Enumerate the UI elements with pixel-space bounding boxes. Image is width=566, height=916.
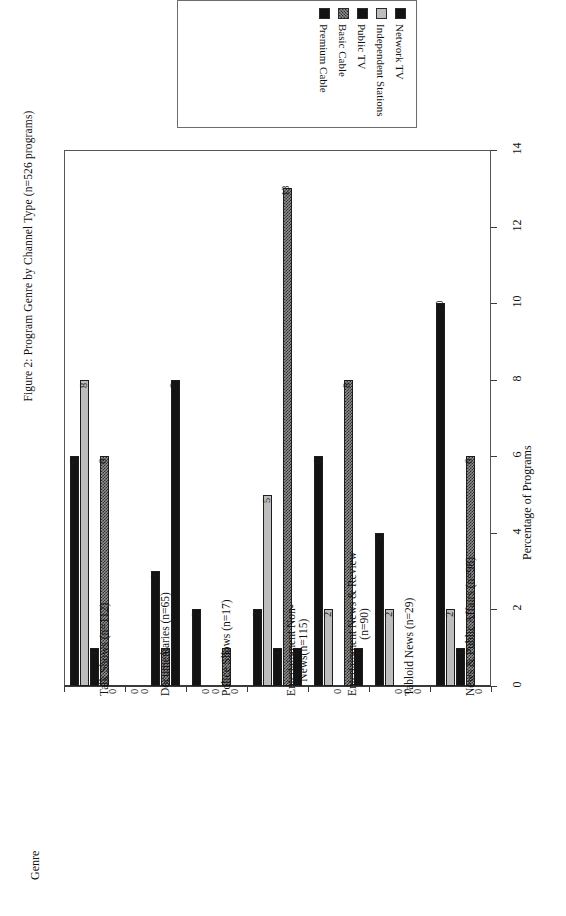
bar-value-label: 10: [434, 301, 445, 312]
value-axis-tick-label: 0: [510, 675, 525, 695]
value-axis-tick-label: 14: [510, 139, 525, 159]
bar-value-label: 6: [68, 459, 79, 464]
legend-item-label: Independent Stations: [376, 24, 388, 117]
value-axis-tick-label: 4: [510, 521, 525, 541]
category-axis-tick: [308, 686, 309, 692]
category-axis-label-line: Police Shows (n=17): [220, 599, 232, 696]
legend-swatch-icon: [357, 8, 368, 19]
legend-swatch-icon: [395, 8, 406, 19]
value-axis-tick-label: 6: [510, 445, 525, 465]
category-axis-label: Entertainment News & Review(n=90): [346, 552, 370, 696]
bar-value-label: 2: [444, 612, 455, 617]
category-axis-label-line: Tabloid News (n=29): [403, 598, 415, 696]
plot-area: [64, 150, 491, 686]
category-axis-label-line: Documentaries (n=65): [159, 592, 171, 696]
bar-value-label: 1: [454, 650, 465, 655]
bar-value-label: 1: [88, 650, 99, 655]
category-axis-tick: [247, 686, 248, 692]
category-axis-label: Talk Shows (n=112): [98, 603, 110, 696]
bar: [324, 609, 333, 686]
legend-item: Independent Stations: [372, 8, 391, 120]
category-axis-tick: [64, 686, 65, 692]
category-axis-tick: [125, 686, 126, 692]
bar-value-label: 2: [190, 612, 201, 617]
bar: [436, 303, 445, 686]
bar-value-label: 4: [373, 536, 384, 541]
category-axis-tick: [491, 686, 492, 692]
category-axis-label-line: Entertainment News & Review: [346, 552, 358, 696]
legend-item: Basic Cable: [334, 8, 353, 120]
legend-swatch-icon: [319, 8, 330, 19]
bar: [375, 533, 384, 686]
category-axis-label-line: Entertainment Non-: [285, 604, 297, 696]
value-axis-tick: [491, 380, 497, 381]
legend-item: Network TV: [391, 8, 410, 120]
bar: [253, 609, 262, 686]
bar-value-label: 3: [149, 574, 160, 579]
legend-item-label: Network TV: [395, 24, 407, 80]
bar: [314, 456, 323, 686]
category-axis-label: News & Public Affairs (n=98): [464, 557, 476, 696]
bar: [446, 609, 455, 686]
category-axis-label: Tabloid News (n=29): [403, 598, 415, 696]
value-axis-tick-label: 12: [510, 215, 525, 235]
legend-item-label: Premium Cable: [319, 24, 331, 93]
category-axis-line: [64, 686, 491, 687]
bar-value-label: 0: [332, 689, 343, 694]
bar: [263, 495, 272, 686]
value-axis-tick-label: 2: [510, 598, 525, 618]
legend-item-label: Public TV: [357, 24, 369, 69]
bar-value-label: 13: [280, 186, 291, 197]
category-axis-tick: [430, 686, 431, 692]
bar-value-label: 8: [168, 382, 179, 387]
bar: [80, 380, 89, 686]
bar-value-label: 8: [341, 382, 352, 387]
bar-value-label: 0: [210, 689, 221, 694]
legend-item: Premium Cable: [315, 8, 334, 120]
bar-value-label: 6: [97, 459, 108, 464]
figure-title: Figure 2: Program Genre by Channel Type …: [22, 6, 34, 506]
category-axis-title: Genre: [28, 851, 43, 880]
chart-legend: Network TVIndependent StationsPublic TVB…: [177, 0, 417, 128]
category-axis-label: Entertainment Non-News(n=115): [285, 604, 309, 696]
bar-value-label: 6: [463, 459, 474, 464]
legend-swatch-icon: [338, 8, 349, 19]
bar-value-label: 5: [261, 497, 272, 502]
bar-value-label: 1: [271, 650, 282, 655]
value-axis-tick: [491, 456, 497, 457]
legend-item: Public TV: [353, 8, 372, 120]
bar-value-label: 6: [312, 459, 323, 464]
value-axis-tick: [491, 303, 497, 304]
category-axis-label-line: (n=90): [358, 552, 370, 696]
value-axis-tick: [491, 227, 497, 228]
category-axis-label: Police Shows (n=17): [220, 599, 232, 696]
value-axis-tick: [491, 533, 497, 534]
value-axis-tick-label: 8: [510, 368, 525, 388]
bar-value-label: 0: [139, 689, 150, 694]
category-axis-label-line: Talk Shows (n=112): [98, 603, 110, 696]
bar: [385, 609, 394, 686]
bar-value-label: 2: [322, 612, 333, 617]
bar: [70, 456, 79, 686]
category-axis-label-line: News & Public Affairs (n=98): [464, 557, 476, 696]
category-axis-label-line: News(n=115): [297, 604, 309, 696]
value-axis-tick: [491, 609, 497, 610]
value-axis-tick: [491, 150, 497, 151]
bar-value-label: 2: [251, 612, 262, 617]
category-axis-label: Documentaries (n=65): [159, 592, 171, 696]
legend-swatch-icon: [376, 8, 387, 19]
value-axis-tick-label: 10: [510, 292, 525, 312]
category-axis-tick: [186, 686, 187, 692]
bar: [171, 380, 180, 686]
bar-value-label: 2: [383, 612, 394, 617]
legend-item-label: Basic Cable: [338, 24, 350, 77]
bar: [192, 609, 201, 686]
category-axis-tick: [369, 686, 370, 692]
bar-value-label: 8: [78, 382, 89, 387]
